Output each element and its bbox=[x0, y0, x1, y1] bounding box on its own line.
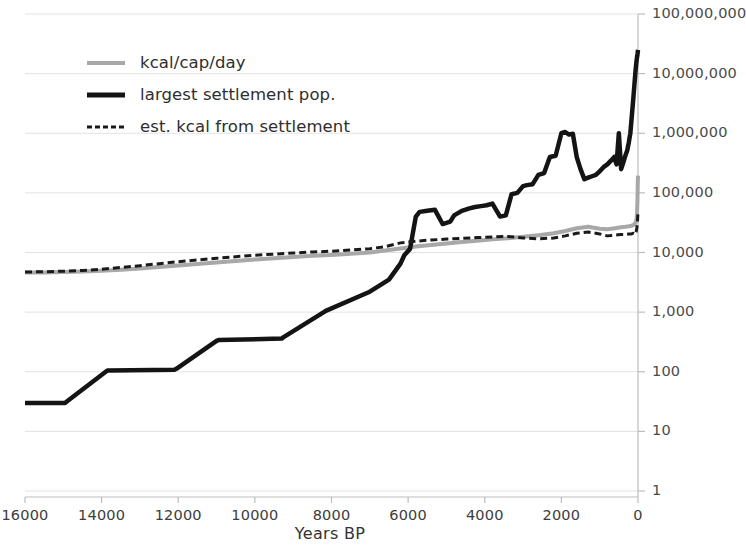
y-axis-tick-label: 10,000 bbox=[652, 244, 704, 260]
legend-label-est-kcal-from-settlement: est. kcal from settlement bbox=[140, 117, 350, 136]
series-line-kcal-cap-day bbox=[25, 176, 638, 273]
x-axis-ticks bbox=[25, 497, 638, 503]
y-axis-tick-label: 100,000 bbox=[652, 184, 713, 200]
legend-item: kcal/cap/day bbox=[86, 46, 416, 78]
legend-swatch-est-kcal-from-settlement bbox=[86, 119, 126, 133]
series-line-est-kcal-from-settlement bbox=[25, 212, 638, 272]
y-axis-tick-label: 100 bbox=[652, 363, 680, 379]
legend-swatch-kcal-per-cap-day bbox=[86, 55, 126, 69]
y-axis-tick-label: 1,000,000 bbox=[652, 124, 728, 140]
y-axis-tick-label: 1 bbox=[652, 482, 661, 498]
legend-label-largest-settlement-pop: largest settlement pop. bbox=[140, 85, 336, 104]
y-axis-ticks bbox=[638, 14, 645, 491]
x-axis-title: Years BP bbox=[0, 524, 660, 543]
legend-label-kcal-per-cap-day: kcal/cap/day bbox=[140, 53, 246, 72]
y-axis-tick-label: 10 bbox=[652, 422, 671, 438]
y-axis-tick-label: 1,000 bbox=[652, 303, 695, 319]
x-axis-tick-label: 0 bbox=[593, 507, 683, 523]
legend-swatch-largest-settlement-pop bbox=[86, 87, 126, 101]
legend-item: est. kcal from settlement bbox=[86, 110, 416, 142]
y-axis-tick-label: 10,000,000 bbox=[652, 65, 737, 81]
y-axis-tick-label: 100,000,000 bbox=[652, 5, 746, 21]
chart-legend: kcal/cap/day largest settlement pop. est… bbox=[86, 46, 416, 142]
legend-item: largest settlement pop. bbox=[86, 78, 416, 110]
